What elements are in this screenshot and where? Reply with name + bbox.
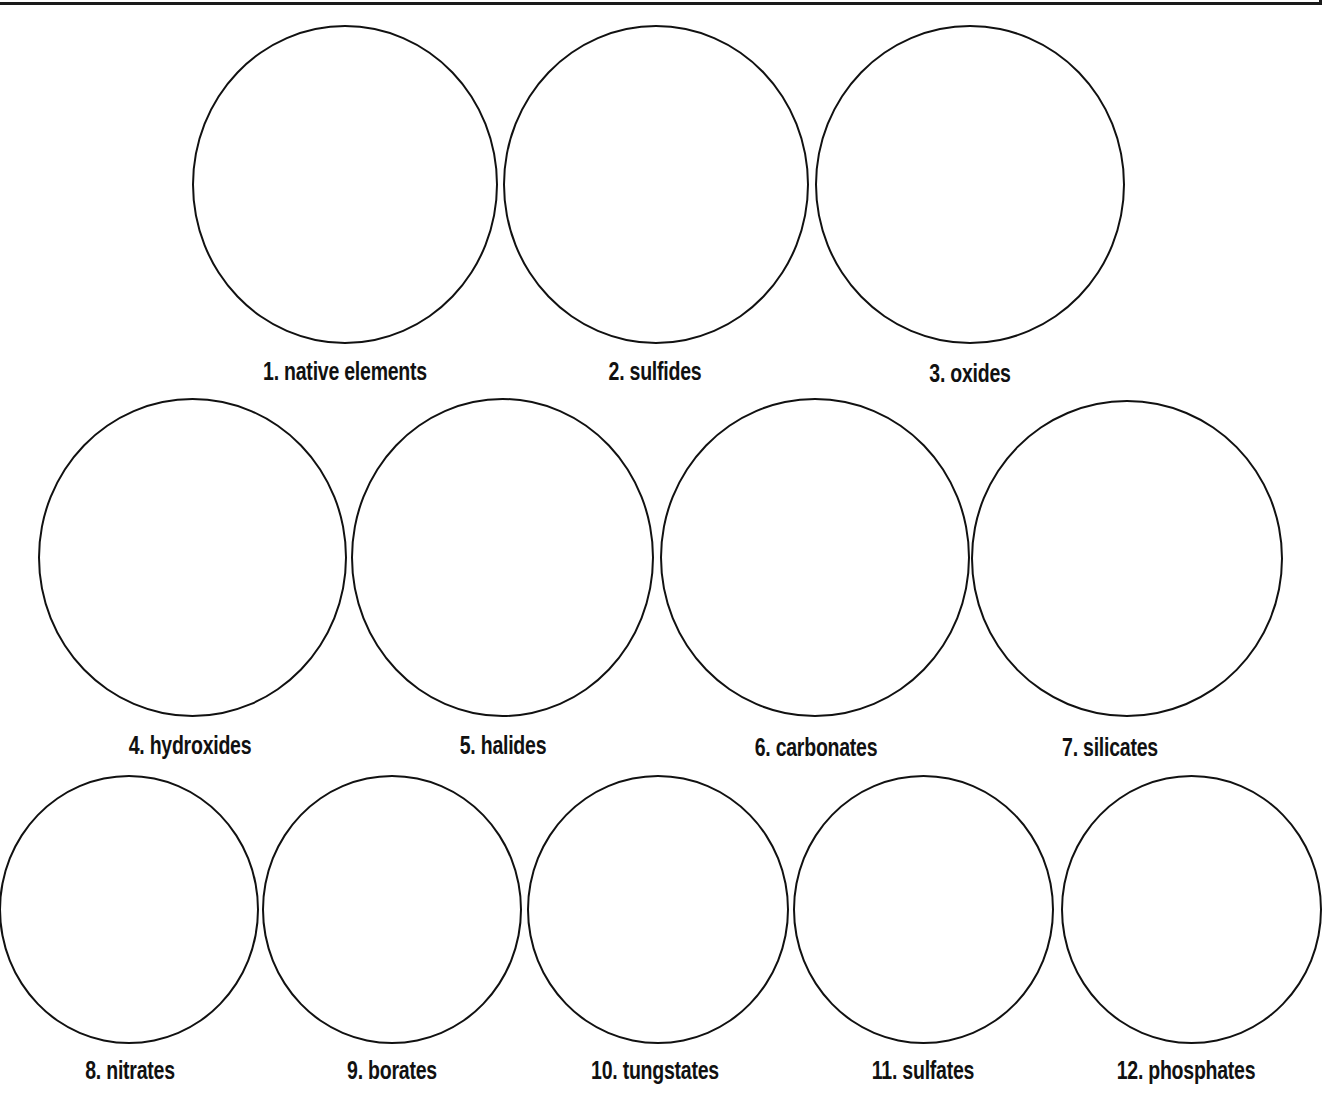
- label-borates: 9. borates: [347, 1056, 437, 1084]
- circle-phosphates: [1061, 775, 1322, 1044]
- label-sulfates: 11. sulfates: [872, 1056, 974, 1084]
- circle-borates: [262, 775, 522, 1044]
- label-tungstates: 10. tungstates: [591, 1056, 719, 1084]
- top-border-frame: [0, 0, 1322, 5]
- circle-sulfates: [793, 775, 1054, 1044]
- label-hydroxides: 4. hydroxides: [129, 731, 252, 759]
- circle-carbonates: [660, 398, 970, 717]
- circle-nitrates: [0, 775, 259, 1044]
- circle-silicates: [971, 400, 1283, 717]
- label-halides: 5. halides: [460, 731, 547, 759]
- circle-oxides: [815, 25, 1125, 344]
- label-silicates: 7. silicates: [1062, 733, 1158, 761]
- circle-tungstates: [527, 775, 789, 1044]
- label-nitrates: 8. nitrates: [85, 1056, 175, 1084]
- circle-sulfides: [503, 25, 809, 344]
- circle-hydroxides: [38, 398, 347, 717]
- circle-halides: [351, 398, 654, 717]
- label-sulfides: 2. sulfides: [609, 357, 702, 385]
- circle-native-elements: [192, 25, 498, 344]
- label-native-elements: 1. native elements: [263, 357, 427, 385]
- label-carbonates: 6. carbonates: [755, 733, 878, 761]
- label-phosphates: 12. phosphates: [1117, 1056, 1256, 1084]
- label-oxides: 3. oxides: [929, 359, 1010, 387]
